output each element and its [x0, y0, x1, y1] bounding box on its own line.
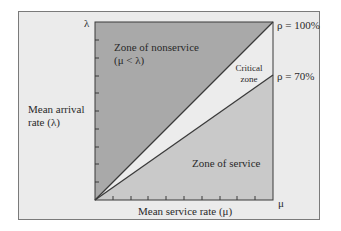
zone-nonservice-label-line1: Zone of nonservice	[114, 41, 199, 53]
zone-service-label: Zone of service	[192, 157, 260, 169]
critical-zone-label-line2: zone	[233, 74, 265, 84]
rho-100-label: ρ = 100%	[277, 19, 320, 31]
x-axis-max-label: μ	[278, 197, 284, 209]
zone-nonservice-label-line2: (μ < λ)	[114, 54, 144, 66]
y-axis-max-label: λ	[84, 17, 89, 29]
critical-zone-label-line1: Critical	[233, 63, 265, 73]
y-axis-label-line1: Mean arrival	[28, 103, 85, 115]
x-axis-label: Mean service rate (μ)	[138, 205, 232, 217]
rho-70-label: ρ = 70%	[277, 70, 314, 82]
y-axis-label-line2: rate (λ)	[28, 116, 60, 128]
